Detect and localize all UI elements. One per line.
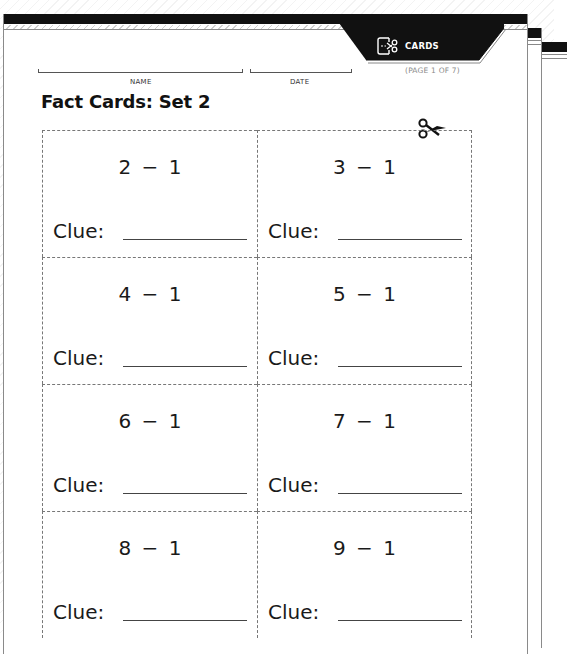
fact-card: 3 − 1 Clue: — [257, 130, 472, 257]
card-clue-label: Clue: — [53, 473, 104, 497]
card-expression: 8 − 1 — [43, 536, 257, 560]
card-clue-label: Clue: — [268, 600, 319, 624]
card-expression: 4 − 1 — [43, 282, 257, 306]
tab-cards: CARDS — [377, 34, 439, 58]
card-clue-label: Clue: — [268, 473, 319, 497]
page-indicator: (PAGE 1 OF 7) — [405, 66, 460, 75]
card-clue-label: Clue: — [268, 346, 319, 370]
clue-answer-line[interactable] — [338, 620, 462, 621]
clue-answer-line[interactable] — [338, 366, 462, 367]
clue-answer-line[interactable] — [123, 366, 247, 367]
card-expression: 5 − 1 — [258, 282, 471, 306]
card-expression: 7 − 1 — [258, 409, 471, 433]
fact-card: 5 − 1 Clue: — [257, 257, 472, 384]
date-label: DATE — [290, 78, 309, 86]
fact-card: 9 − 1 Clue: — [257, 511, 472, 638]
fact-card: 8 − 1 Clue: — [42, 511, 257, 638]
fact-card: 4 − 1 Clue: — [42, 257, 257, 384]
card-expression: 2 − 1 — [43, 155, 257, 179]
card-clue-label: Clue: — [53, 346, 104, 370]
fact-card: 6 − 1 Clue: — [42, 384, 257, 511]
clue-answer-line[interactable] — [123, 239, 247, 240]
fact-card: 2 − 1 Clue: — [42, 130, 257, 257]
clue-answer-line[interactable] — [123, 620, 247, 621]
tab-label: CARDS — [405, 41, 439, 51]
card-clue-label: Clue: — [53, 219, 104, 243]
fact-card: 7 − 1 Clue: — [257, 384, 472, 511]
cut-cards-icon — [377, 36, 399, 56]
name-label: NAME — [130, 78, 152, 86]
card-expression: 3 − 1 — [258, 155, 471, 179]
card-clue-label: Clue: — [53, 600, 104, 624]
worksheet-page: CARDS (PAGE 1 OF 7) NAME DATE Fact Cards… — [3, 14, 528, 654]
card-clue-label: Clue: — [268, 219, 319, 243]
clue-answer-line[interactable] — [338, 239, 462, 240]
date-field-line[interactable] — [250, 72, 352, 73]
clue-answer-line[interactable] — [338, 493, 462, 494]
name-field-line[interactable] — [38, 72, 243, 73]
clue-answer-line[interactable] — [123, 493, 247, 494]
card-expression: 9 − 1 — [258, 536, 471, 560]
page-title: Fact Cards: Set 2 — [41, 91, 210, 112]
header-tab — [4, 14, 527, 74]
card-expression: 6 − 1 — [43, 409, 257, 433]
